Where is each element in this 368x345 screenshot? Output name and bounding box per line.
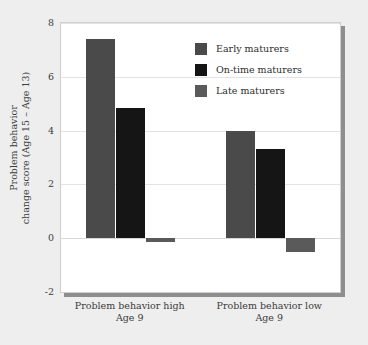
- x-category-main-1: Problem behavior low: [217, 300, 322, 311]
- y-tick-label-2: 2: [48, 178, 54, 189]
- chart-legend: Early maturersOn-time maturersLate matur…: [195, 40, 335, 103]
- x-category-sub-1: Age 9: [200, 312, 340, 324]
- bar-1-0: [226, 131, 255, 239]
- legend-swatch-icon-0: [195, 43, 207, 55]
- legend-swatch-icon-2: [195, 85, 207, 97]
- x-category-main-0: Problem behavior high: [75, 300, 185, 311]
- bar-0-2: [146, 238, 175, 242]
- legend-label-0: Early maturers: [216, 43, 289, 54]
- x-category-sub-0: Age 9: [60, 312, 200, 324]
- bar-0-1: [116, 108, 145, 238]
- gridline-8: [61, 23, 340, 24]
- bar-1-1: [256, 149, 285, 238]
- legend-label-2: Late maturers: [216, 85, 285, 96]
- y-tick-label--2: -2: [45, 286, 54, 297]
- y-tick-label-6: 6: [48, 70, 54, 81]
- x-category-label-0: Problem behavior highAge 9: [60, 300, 200, 324]
- x-axis-category-labels: Problem behavior highAge 9Problem behavi…: [60, 300, 341, 336]
- y-axis-title-line1: Problem behavior: [8, 105, 19, 191]
- legend-swatch-icon-1: [195, 64, 207, 76]
- legend-item-0: Early maturers: [195, 40, 335, 57]
- bar-chart-figure: Problem behavior change score (Age 15 – …: [0, 0, 368, 345]
- bar-0-0: [86, 39, 115, 238]
- y-axis-tick-labels: 86420-2: [30, 0, 58, 296]
- bar-1-2: [286, 238, 315, 251]
- y-tick-label-0: 0: [48, 232, 54, 243]
- gridline--2: [61, 292, 340, 293]
- y-tick-label-4: 4: [48, 124, 54, 135]
- legend-item-1: On-time maturers: [195, 61, 335, 78]
- y-tick-label-8: 8: [48, 17, 54, 28]
- x-category-label-1: Problem behavior lowAge 9: [200, 300, 340, 324]
- legend-item-2: Late maturers: [195, 82, 335, 99]
- legend-label-1: On-time maturers: [216, 64, 302, 75]
